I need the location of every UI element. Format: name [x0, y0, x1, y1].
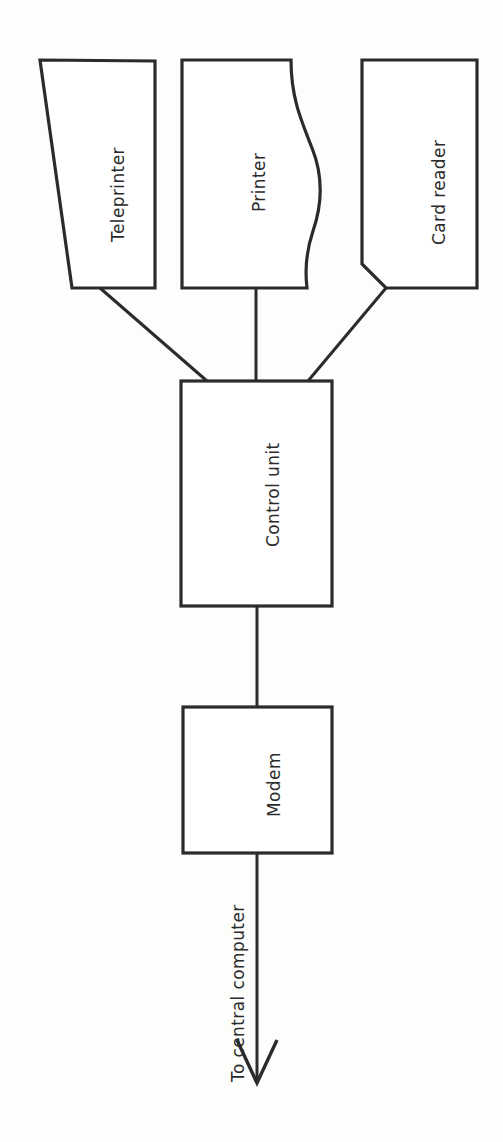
connector-card-reader-to-control-unit [308, 288, 386, 381]
node-label-control-unit: Control unit [263, 442, 283, 547]
node-label-printer: Printer [249, 153, 269, 212]
node-label-card-reader: Card reader [429, 140, 449, 245]
node-shape-teleprinter[interactable] [40, 60, 155, 288]
diagram-canvas: Teleprinter Printer Card reader Control … [0, 0, 503, 1142]
node-shape-control-unit[interactable] [181, 381, 332, 606]
connector-teleprinter-to-control-unit [100, 288, 207, 381]
node-label-modem: Modem [264, 752, 284, 817]
flow-label-to-central-computer: To central computer [228, 904, 248, 1082]
node-shape-modem[interactable] [183, 707, 332, 853]
node-label-teleprinter: Teleprinter [108, 147, 128, 242]
node-shape-card-reader[interactable] [362, 60, 477, 288]
